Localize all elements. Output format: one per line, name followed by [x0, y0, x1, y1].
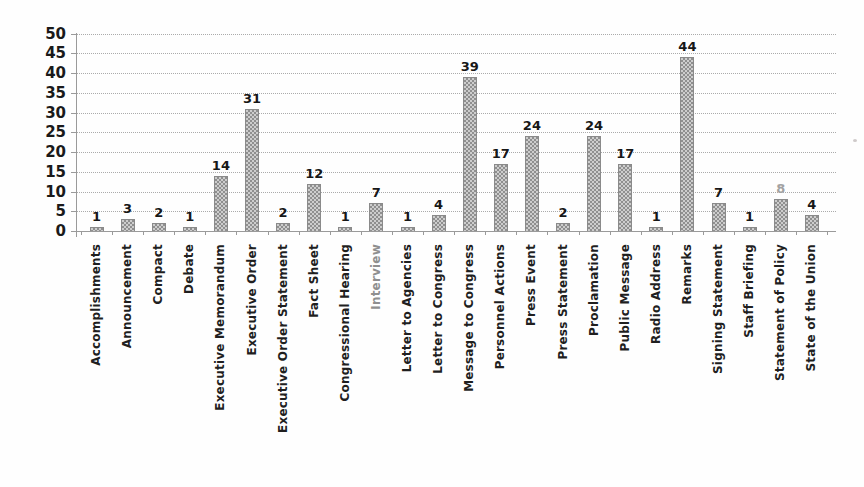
y-axis-tick-label: 10: [8, 183, 66, 201]
bar: [743, 227, 757, 231]
x-axis-label: Proclamation: [587, 244, 603, 454]
y-axis-tick-label: 30: [8, 104, 66, 122]
y-axis-tick-label: 50: [8, 25, 66, 43]
y-axis-line: [76, 33, 77, 237]
bar-value-label: 7: [697, 185, 741, 201]
bar: [556, 223, 570, 231]
bar-chart: 051015202530354045501Accomplishments3Ann…: [0, 0, 864, 487]
bar-value-label: 17: [603, 146, 647, 162]
bar: [90, 227, 104, 231]
bar-value-label: 1: [168, 209, 212, 225]
y-axis-tick-label: 45: [8, 44, 66, 62]
x-axis-label: Letter to Congress: [431, 244, 447, 454]
bar: [712, 203, 726, 231]
x-axis-tick: [703, 231, 704, 235]
x-axis-line: [76, 231, 836, 232]
gridline: [76, 34, 836, 35]
x-axis-label: Accomplishments: [89, 244, 105, 454]
bar-value-label: 2: [261, 205, 305, 221]
x-axis-tick: [361, 231, 362, 235]
y-axis-tick: [71, 192, 76, 193]
y-axis-tick: [71, 231, 76, 232]
y-axis-tick: [71, 172, 76, 173]
y-axis-tick-label: 40: [8, 64, 66, 82]
x-axis-tick: [143, 231, 144, 235]
x-axis-tick: [392, 231, 393, 235]
x-axis-tick: [765, 231, 766, 235]
y-axis-tick: [71, 113, 76, 114]
y-axis-tick: [71, 34, 76, 35]
x-axis-label: Fact Sheet: [307, 244, 323, 454]
x-axis-label: Compact: [151, 244, 167, 454]
gridline: [76, 53, 836, 54]
bar-value-label: 4: [417, 197, 461, 213]
x-axis-label: Announcement: [120, 244, 136, 454]
bar: [805, 215, 819, 231]
x-axis-tick: [485, 231, 486, 235]
x-axis-tick: [579, 231, 580, 235]
x-axis-label: Press Event: [524, 244, 540, 454]
bar: [214, 176, 228, 231]
bar-value-label: 24: [572, 118, 616, 134]
x-axis-tick: [827, 231, 828, 235]
x-axis-label: Personnel Actions: [493, 244, 509, 454]
gridline: [76, 172, 836, 173]
bar-value-label: 12: [292, 166, 336, 182]
y-axis-tick-label: 0: [8, 222, 66, 240]
x-axis-tick: [516, 231, 517, 235]
x-axis-tick: [268, 231, 269, 235]
gridline: [76, 113, 836, 114]
gridline: [76, 132, 836, 133]
y-axis-tick: [71, 132, 76, 133]
bar: [525, 136, 539, 231]
x-axis-tick: [672, 231, 673, 235]
y-axis-tick: [71, 53, 76, 54]
x-axis-label: Congressional Hearing: [338, 244, 354, 454]
bar-value-label: 4: [790, 197, 834, 213]
x-axis-label: Executive Memorandum: [213, 244, 229, 454]
x-axis-label: Radio Address: [649, 244, 665, 454]
x-axis-tick: [205, 231, 206, 235]
bar-value-label: 31: [230, 91, 274, 107]
bar: [587, 136, 601, 231]
x-axis-tick: [299, 231, 300, 235]
y-axis-tick: [71, 73, 76, 74]
bar: [649, 227, 663, 231]
y-axis-tick: [71, 152, 76, 153]
y-axis-tick-label: 35: [8, 84, 66, 102]
x-axis-tick: [734, 231, 735, 235]
x-axis-tick: [796, 231, 797, 235]
x-axis-tick: [330, 231, 331, 235]
x-axis-tick: [610, 231, 611, 235]
x-axis-label: Interview: [369, 244, 385, 454]
x-axis-tick: [236, 231, 237, 235]
x-axis-label: Statement of Policy: [773, 244, 789, 454]
bar: [369, 203, 383, 231]
x-axis-tick: [423, 231, 424, 235]
y-axis-tick-label: 25: [8, 123, 66, 141]
bar-value-label: 7: [354, 185, 398, 201]
y-axis-tick-label: 20: [8, 143, 66, 161]
bar-value-label: 39: [448, 59, 492, 75]
bar: [432, 215, 446, 231]
y-axis-tick-label: 5: [8, 202, 66, 220]
bar: [338, 227, 352, 231]
x-axis-tick: [81, 231, 82, 235]
x-axis-label: Signing Statement: [711, 244, 727, 454]
x-axis-label: Message to Congress: [462, 244, 478, 454]
y-axis-tick-label: 15: [8, 163, 66, 181]
gridline: [76, 93, 836, 94]
bar: [680, 57, 694, 231]
bar-value-label: 17: [479, 146, 523, 162]
bar: [401, 227, 415, 231]
x-axis-tick: [112, 231, 113, 235]
x-axis-label: Public Message: [618, 244, 634, 454]
x-axis-label: Press Statement: [556, 244, 572, 454]
bar: [774, 199, 788, 231]
bar-value-label: 24: [510, 118, 554, 134]
x-axis-label: Debate: [182, 244, 198, 454]
x-axis-tick: [641, 231, 642, 235]
x-axis-label: State of the Union: [804, 244, 820, 454]
plot-area: 051015202530354045501Accomplishments3Ann…: [0, 0, 864, 487]
scan-speckle: [853, 139, 857, 142]
